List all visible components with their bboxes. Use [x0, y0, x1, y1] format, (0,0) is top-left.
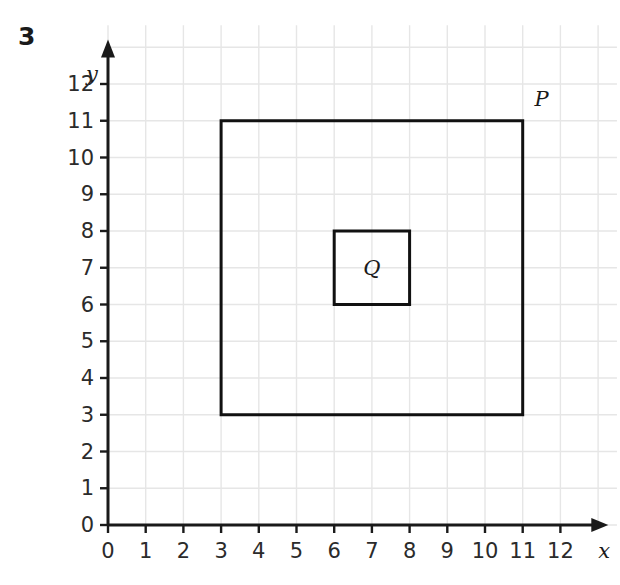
x-tick-label: 11 [509, 541, 536, 562]
x-tick-label: 12 [547, 541, 574, 562]
y-tick-label: 4 [81, 368, 94, 389]
y-tick-label: 7 [81, 257, 94, 278]
x-tick-label: 0 [101, 541, 114, 562]
axes [101, 40, 608, 532]
y-axis-arrowhead [101, 40, 115, 58]
y-tick-label: 2 [81, 441, 94, 462]
y-tick-label: 0 [81, 515, 94, 536]
y-tick-label: 9 [81, 184, 94, 205]
figure-page: 3 y x 01234567891011120123456789101112 P… [0, 0, 620, 585]
shape-label-q: Q [363, 257, 380, 278]
y-tick-label: 11 [67, 110, 94, 131]
y-tick-label: 8 [81, 221, 94, 242]
x-tick-label: 3 [214, 541, 227, 562]
x-tick-label: 5 [290, 541, 303, 562]
y-tick-label: 5 [81, 331, 94, 352]
x-tick-label: 8 [403, 541, 416, 562]
axis-tick-marks [100, 84, 560, 533]
x-tick-label: 1 [139, 541, 152, 562]
y-tick-label: 1 [81, 478, 94, 499]
x-tick-label: 7 [365, 541, 378, 562]
shape-label-p: P [534, 88, 548, 109]
x-tick-label: 2 [177, 541, 190, 562]
y-tick-label: 12 [67, 74, 94, 95]
x-tick-label: 10 [472, 541, 499, 562]
x-tick-label: 4 [252, 541, 265, 562]
y-tick-label: 6 [81, 294, 94, 315]
x-axis-arrowhead [591, 518, 608, 532]
y-tick-label: 3 [81, 404, 94, 425]
x-axis-label: x [598, 541, 610, 562]
y-tick-label: 10 [67, 147, 94, 168]
x-tick-label: 6 [328, 541, 341, 562]
x-tick-label: 9 [441, 541, 454, 562]
